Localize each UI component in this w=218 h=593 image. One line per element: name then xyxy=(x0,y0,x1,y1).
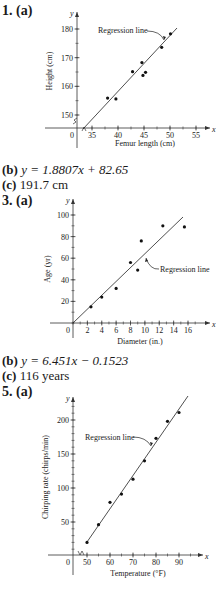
y-tick-label: 200 xyxy=(57,416,69,425)
data-point xyxy=(166,420,169,423)
data-point xyxy=(131,478,134,481)
x-tick-label: 80 xyxy=(152,558,160,567)
x-tick-label: 70 xyxy=(129,558,137,567)
x-tick-label: 50 xyxy=(83,558,91,567)
data-point xyxy=(97,523,100,526)
data-point xyxy=(154,437,157,440)
data-point xyxy=(108,501,111,504)
y-axis-title: Chirping rate (chirps/min) xyxy=(41,435,50,519)
annotation-leader xyxy=(133,437,151,446)
data-point xyxy=(85,541,88,544)
x-tick-label: 90 xyxy=(175,558,183,567)
y-axis-symbol: y xyxy=(65,394,70,403)
x-axis-arrow-icon xyxy=(198,553,203,557)
chart-temperature-chirping: xy0506070809050100150200Temperature (°F)… xyxy=(0,0,218,593)
origin-label: 0 xyxy=(66,558,70,567)
x-axis-title: Temperature (°F) xyxy=(110,569,166,578)
regression-line xyxy=(87,396,188,542)
data-point xyxy=(177,411,180,414)
data-point xyxy=(143,459,146,462)
regression-annotation: Regression line xyxy=(85,433,135,442)
axis-break-icon xyxy=(78,551,84,555)
y-tick-label: 150 xyxy=(57,450,69,459)
y-tick-label: 100 xyxy=(57,484,69,493)
x-axis-symbol: x xyxy=(204,552,209,561)
y-tick-label: 50 xyxy=(61,518,69,527)
x-tick-label: 60 xyxy=(106,558,114,567)
data-point xyxy=(120,493,123,496)
y-axis-arrow-icon xyxy=(71,397,75,402)
